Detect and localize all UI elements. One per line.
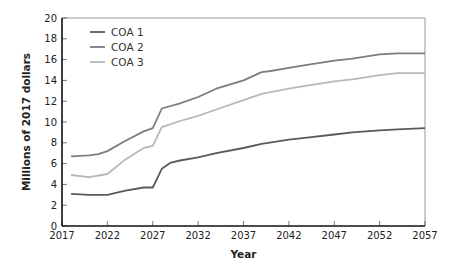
y-axis-title: Millions of 2017 dollars: [20, 53, 32, 191]
x-tick-label: 2047: [322, 230, 347, 241]
x-tick-label: 2052: [367, 230, 392, 241]
y-tick-label: 8: [51, 137, 57, 148]
y-tick-label: 16: [44, 54, 57, 65]
series-line-coa-2: [71, 53, 425, 156]
series-line-coa-3: [71, 73, 425, 177]
y-tick-label: 4: [51, 179, 57, 190]
x-tick-label: 2057: [412, 230, 437, 241]
x-tick-label: 2027: [140, 230, 165, 241]
x-tick-label: 2042: [276, 230, 301, 241]
y-tick-label: 18: [44, 33, 57, 44]
y-tick-label: 14: [44, 75, 57, 86]
x-axis-ticks: 201720222027203220372042204720522057: [49, 221, 437, 241]
y-tick-label: 2: [51, 200, 57, 211]
legend: COA 1COA 2COA 3: [90, 26, 144, 68]
legend-label: COA 2: [111, 41, 144, 53]
y-tick-label: 6: [51, 158, 57, 169]
y-tick-label: 20: [44, 13, 57, 24]
legend-label: COA 1: [111, 26, 144, 38]
y-tick-label: 12: [44, 96, 57, 107]
series-layer: [71, 53, 425, 194]
y-tick-label: 10: [44, 117, 57, 128]
x-tick-label: 2037: [231, 230, 256, 241]
y-axis-ticks: 02468101214161820: [44, 13, 67, 232]
line-chart: 02468101214161820 2017202220272032203720…: [0, 0, 457, 271]
x-tick-label: 2022: [95, 230, 120, 241]
legend-label: COA 3: [111, 56, 144, 68]
x-tick-label: 2032: [185, 230, 210, 241]
x-axis-title: Year: [229, 248, 257, 260]
x-tick-label: 2017: [49, 230, 74, 241]
